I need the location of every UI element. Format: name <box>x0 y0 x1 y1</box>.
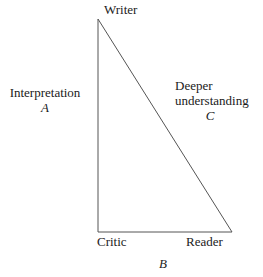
edge-variable-b: B <box>159 256 167 271</box>
vertex-label-critic: Critic <box>97 234 127 249</box>
edge-label-interpretation-text: Interpretation <box>1 85 89 100</box>
diagram-canvas: Writer Interpretation A Deeper understan… <box>0 0 263 277</box>
triangle-hypotenuse-edge <box>98 19 232 232</box>
vertex-label-reader: Reader <box>186 234 223 249</box>
vertex-label-writer: Writer <box>104 2 137 17</box>
edge-label-deeper-line-2: understanding <box>175 93 261 108</box>
edge-label-deeper-line-1: Deeper <box>175 78 261 93</box>
edge-variable-c: C <box>175 108 245 123</box>
edge-label-interpretation: Interpretation A <box>1 85 89 115</box>
edge-variable-a: A <box>1 100 89 115</box>
triangle-shape <box>0 0 263 277</box>
edge-label-deeper-understanding: Deeper understanding C <box>175 78 261 123</box>
